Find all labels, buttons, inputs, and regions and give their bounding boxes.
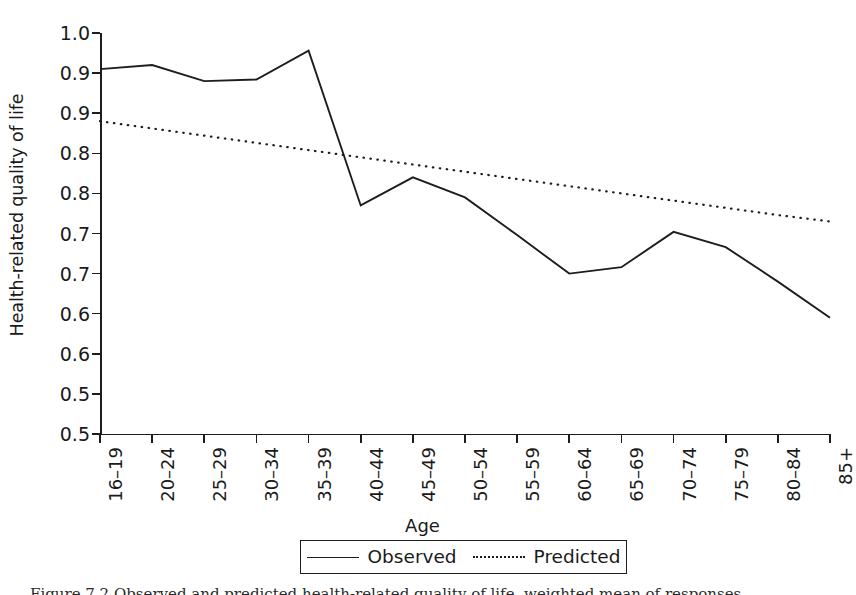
x-axis-tick-label: 40–44 [368,447,386,502]
x-axis-title: Age [0,515,845,536]
x-axis-tick-mark [829,435,831,443]
x-axis-tick-mark [99,435,101,443]
y-axis-tick-mark [92,72,100,74]
x-axis-tick-label: 35–39 [316,447,334,502]
x-axis-tick-mark [308,435,310,443]
legend-item-observed: Observed [307,548,457,567]
x-axis-tick-mark [673,435,675,443]
x-axis-tick-label: 30–34 [263,447,281,502]
legend-label-observed: Observed [368,548,457,567]
x-axis-tick-label: 16–19 [107,447,125,502]
figure-caption-text: Figure 7.2 Observed and predicted health… [30,586,741,595]
y-axis-tick-mark [92,273,100,275]
figure-caption: Figure 7.2 Observed and predicted health… [30,586,830,595]
x-axis-tick-mark [568,435,570,443]
legend-swatch-dotted-icon [473,556,525,558]
x-axis-tick-mark [621,435,623,443]
x-axis-tick-label: 45–49 [420,447,438,502]
y-axis-tick-mark [92,313,100,315]
y-axis-tick-mark [92,32,100,34]
x-axis-title-text: Age [405,515,440,536]
legend-swatch-solid-icon [307,557,359,558]
x-axis-tick-label: 80–84 [785,447,803,502]
x-axis-tick-label: 20–24 [159,447,177,502]
x-axis-tick-label: 65–69 [628,447,646,502]
y-axis-tick-mark [92,112,100,114]
x-axis-tick-mark [412,435,414,443]
x-axis-tick-label: 60–64 [576,447,594,502]
y-axis-tick-mark [92,193,100,195]
x-axis-tick-mark [516,435,518,443]
legend-label-predicted: Predicted [534,548,621,567]
y-axis-tick-mark [92,393,100,395]
x-axis-tick-mark [777,435,779,443]
x-axis-tick-label: 70–74 [681,447,699,502]
y-axis-tick-mark [92,153,100,155]
legend-item-predicted: Predicted [473,548,621,567]
x-axis-tick-label: 25–29 [211,447,229,502]
y-axis-tick-mark [92,233,100,235]
x-axis-tick-mark [360,435,362,443]
x-axis-tick-mark [464,435,466,443]
x-axis-tick-label: 85+ [837,447,855,485]
x-axis-tick-label: 55–59 [524,447,542,502]
x-axis-tick-mark [725,435,727,443]
x-axis-tick-mark [256,435,258,443]
x-axis-tick-mark [151,435,153,443]
chart-legend: Observed Predicted [300,540,627,574]
y-axis-tick-mark [92,353,100,355]
x-axis-tick-mark [203,435,205,443]
x-axis-tick-label: 75–79 [733,447,751,502]
x-axis-tick-label: 50–54 [472,447,490,502]
